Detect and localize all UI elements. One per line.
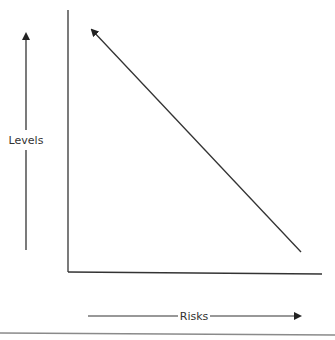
levels-label: Levels — [9, 134, 44, 147]
trend-arrow — [92, 30, 301, 252]
page-rule — [0, 333, 335, 335]
x-axis — [68, 272, 322, 274]
risks-label: Risks — [180, 310, 209, 323]
risk-levels-diagram: Levels Risks — [0, 0, 335, 340]
